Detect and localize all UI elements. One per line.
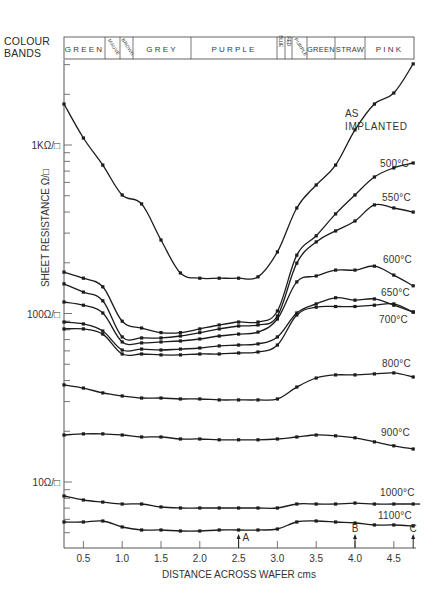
data-point [334,268,337,271]
data-point [198,337,201,340]
curve-label: 500°C [380,158,409,169]
data-point [218,528,221,531]
data-point [276,343,279,346]
data-point [140,326,143,329]
data-point [373,102,376,105]
data-point [218,506,221,509]
data-point [179,339,182,342]
data-point [334,502,337,505]
data-point [412,62,415,65]
data-point [392,274,395,277]
data-point [276,527,279,530]
data-point [62,320,65,323]
position-markers: ABC [237,523,417,548]
data-point [256,342,259,345]
data-point [373,304,376,307]
data-point [237,332,240,335]
data-point [62,433,65,436]
data-point [315,302,318,305]
data-point [82,290,85,293]
data-point [353,501,356,504]
data-point [412,284,415,287]
data-point [353,193,356,196]
data-point [353,373,356,376]
data-point [373,175,376,178]
curve-label: 1100°C [378,510,412,521]
data-point [101,329,104,332]
data-point [237,343,240,346]
data-point [315,234,318,237]
data-point [334,520,337,523]
data-point [373,297,376,300]
data-point [412,161,415,164]
x-tick-label: 3.5 [309,553,323,564]
data-point [315,376,318,379]
data-point [179,437,182,440]
data-point [373,523,376,526]
series-550-c [62,203,414,340]
colour-band-label: GREEN [307,45,335,54]
curve-label: AS [345,108,359,119]
data-point [198,529,201,532]
data-point [392,523,395,526]
marker-label: A [243,532,250,543]
data-point [392,206,395,209]
marker-a: A [237,532,250,548]
data-point [295,262,298,265]
data-point [198,331,201,334]
data-point [256,528,259,531]
data-point [276,309,279,312]
data-point [82,277,85,280]
colour-band-label: GREY [146,45,177,54]
data-point [295,280,298,283]
data-point [140,528,143,531]
data-point [315,183,318,186]
data-point [179,353,182,356]
series-800-c [62,371,414,401]
x-tick-label: 1.5 [154,553,168,564]
curve-label: 1000°C [380,487,415,498]
data-point [121,340,124,343]
data-point [179,331,182,334]
series-900-c [62,432,414,450]
data-point [334,212,337,215]
data-point [101,500,104,503]
curve-line [64,64,413,279]
data-point [159,238,162,241]
series-500-c [62,161,414,334]
data-point [412,375,415,378]
data-point [295,206,298,209]
data-point [159,396,162,399]
data-point [198,346,201,349]
data-point [218,352,221,355]
data-point [159,340,162,343]
data-point [353,299,356,302]
data-point [159,528,162,531]
data-point [62,271,65,274]
data-point [140,336,143,339]
data-point [179,347,182,350]
data-point [198,327,201,330]
curve-label: 700°C [379,314,408,325]
curve-label: 600°C [383,254,412,265]
data-point [295,502,298,505]
data-point [62,383,65,386]
data-point [373,440,376,443]
data-point [198,277,201,280]
data-point [237,438,240,441]
data-point [140,435,143,438]
data-point [276,317,279,320]
x-tick-label: 1.0 [115,553,129,564]
data-point [140,502,143,505]
data-point [218,398,221,401]
data-point [121,193,124,196]
data-point [62,494,65,497]
data-point [295,313,298,316]
data-point [412,310,415,313]
data-point [373,265,376,268]
data-point [334,163,337,166]
data-point [82,136,85,139]
data-point [315,306,318,309]
data-point [101,519,104,522]
data-point [237,324,240,327]
